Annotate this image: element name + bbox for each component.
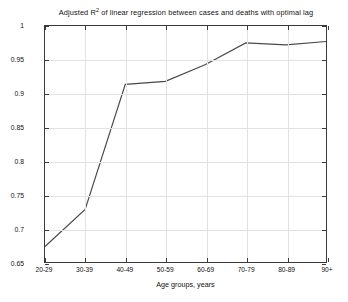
gridline-horizontal — [45, 162, 326, 163]
y-axis-tick-label: 1 — [20, 22, 24, 29]
y-axis-tick-label: 0.8 — [15, 158, 24, 165]
gridline-horizontal — [45, 60, 326, 61]
y-axis-tick — [45, 162, 49, 163]
gridline-vertical — [247, 26, 248, 262]
x-axis-tick-top — [85, 26, 86, 30]
x-axis-tick-label: 80-89 — [278, 266, 295, 273]
y-axis-tick-label: 0.7 — [15, 226, 24, 233]
y-axis-tick-right — [322, 264, 326, 265]
x-axis-tick-top — [45, 26, 46, 30]
x-axis-tick — [328, 258, 329, 262]
x-axis-tick — [207, 258, 208, 262]
y-axis-tick-label: 0.85 — [11, 124, 24, 131]
y-axis-tick-label: 0.9 — [15, 90, 24, 97]
gridline-horizontal — [45, 230, 326, 231]
x-axis-tick — [85, 258, 86, 262]
y-axis-tick — [45, 196, 49, 197]
y-axis-tick-label: 0.95 — [11, 56, 24, 63]
x-axis-tick-top — [126, 26, 127, 30]
gridline-horizontal — [45, 128, 326, 129]
y-axis-tick-right — [322, 94, 326, 95]
x-axis-tick-top — [207, 26, 208, 30]
chart-title: Adjusted R2 of linear regression between… — [44, 8, 328, 17]
y-axis-tick — [45, 60, 49, 61]
y-axis-tick — [45, 230, 49, 231]
x-axis-tick — [126, 258, 127, 262]
x-axis-tick-label: 40-49 — [116, 266, 133, 273]
y-axis-tick-right — [322, 128, 326, 129]
gridline-horizontal — [45, 94, 326, 95]
gridline-vertical — [207, 26, 208, 262]
x-axis-tick-label: 90+ — [321, 266, 332, 273]
gridline-vertical — [288, 26, 289, 262]
chart-figure: Adjusted R2 of linear regression between… — [0, 0, 348, 302]
gridline-vertical — [85, 26, 86, 262]
x-axis-tick — [166, 258, 167, 262]
y-axis-tick-right — [322, 26, 326, 27]
x-axis-title: Age groups, years — [44, 280, 327, 289]
gridline-horizontal — [45, 196, 326, 197]
gridline-vertical — [126, 26, 127, 262]
y-axis-tick — [45, 128, 49, 129]
x-axis-tick — [288, 258, 289, 262]
x-axis-tick-label: 60-69 — [197, 266, 214, 273]
y-axis-tick — [45, 264, 49, 265]
y-axis-tick — [45, 94, 49, 95]
y-axis-tick-right — [322, 60, 326, 61]
y-axis-tick-right — [322, 196, 326, 197]
data-series-line — [45, 42, 326, 247]
x-axis-tick-label: 20-29 — [36, 266, 53, 273]
y-axis-tick-label: 0.75 — [11, 192, 24, 199]
x-axis-tick-top — [328, 26, 329, 30]
gridline-vertical — [166, 26, 167, 262]
x-axis-tick-label: 50-59 — [157, 266, 174, 273]
chart-title-prefix: Adjusted R — [59, 8, 96, 17]
plot-area — [44, 25, 327, 263]
y-axis-tick-right — [322, 230, 326, 231]
x-axis-tick-top — [247, 26, 248, 30]
x-axis-tick-label: 70-79 — [238, 266, 255, 273]
x-axis-tick-top — [288, 26, 289, 30]
x-axis-tick — [45, 258, 46, 262]
x-axis-tick-label: 30-39 — [76, 266, 93, 273]
y-axis-tick-right — [322, 162, 326, 163]
y-axis-tick-label: 0.65 — [11, 260, 24, 267]
x-axis-tick-top — [166, 26, 167, 30]
x-axis-tick — [247, 258, 248, 262]
data-line-svg — [45, 26, 326, 262]
chart-title-suffix: of linear regression between cases and d… — [99, 8, 313, 17]
